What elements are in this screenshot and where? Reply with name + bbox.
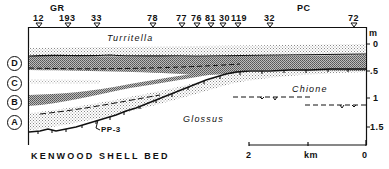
unit-label-a: A [7, 115, 22, 130]
chione-ticks [260, 97, 356, 108]
distance-axis-unit: km [304, 150, 318, 160]
unit-label-b: B [7, 95, 22, 110]
taxon-turritella: Turritella [107, 33, 153, 43]
figure-title: KENWOOD SHELL BED [31, 151, 170, 161]
distance-scale-bar [249, 140, 366, 146]
cross-section-diagram [0, 0, 389, 169]
taxon-chione: Chione [292, 84, 328, 94]
station-markers [36, 23, 357, 27]
unit-label-d: D [7, 56, 22, 71]
distance-tick-label: 0 [362, 150, 368, 160]
unit-label-c: C [7, 76, 22, 91]
distance-tick-label: 2 [246, 150, 252, 160]
depth-tick-label: 0 [373, 39, 379, 49]
depth-axis-unit: m [369, 28, 378, 38]
depth-tick-label: 1.5 [370, 122, 384, 132]
pp3-label: PP-3 [101, 125, 121, 134]
taxon-glossus: Glossus [183, 114, 224, 124]
depth-tick-label: .5 [370, 66, 379, 76]
unit-c-band [29, 79, 100, 84]
depth-tick-label: 1 [373, 93, 379, 103]
